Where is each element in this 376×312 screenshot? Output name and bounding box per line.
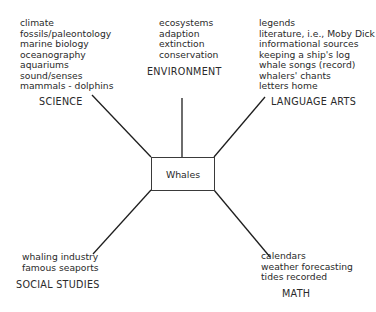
line-math	[214, 190, 270, 257]
center-topic-label: Whales	[166, 169, 200, 180]
environment-item: ecosystems	[159, 18, 218, 29]
language-arts-heading: LANGUAGE ARTS	[271, 96, 356, 107]
environment-heading: ENVIRONMENT	[147, 66, 222, 77]
environment-items: ecosystems adaption extinction conservat…	[159, 18, 218, 60]
environment-item: extinction	[159, 39, 218, 50]
language-arts-item: informational sources	[259, 39, 375, 50]
science-heading: SCIENCE	[39, 96, 83, 107]
math-item: tides recorded	[261, 272, 353, 283]
language-arts-item: legends	[259, 18, 375, 29]
line-social-studies	[93, 190, 151, 254]
science-item: marine biology	[20, 39, 113, 50]
language-arts-item: whale songs (record)	[259, 60, 375, 71]
social-studies-heading: SOCIAL STUDIES	[16, 279, 100, 290]
social-studies-items: whaling industry famous seaports	[22, 252, 99, 273]
language-arts-item: letters home	[259, 81, 375, 92]
line-language-arts	[214, 97, 265, 157]
language-arts-items: legends literature, i.e., Moby Dick info…	[259, 18, 375, 92]
social-studies-item: whaling industry	[22, 252, 99, 263]
math-heading: MATH	[282, 288, 310, 299]
math-item: calendars	[261, 251, 353, 262]
science-item: aquariums	[20, 60, 113, 71]
environment-item: conservation	[159, 50, 218, 61]
social-studies-item: famous seaports	[22, 263, 99, 274]
science-item: mammals - dolphins	[20, 81, 113, 92]
math-items: calendars weather forecasting tides reco…	[261, 251, 353, 283]
science-item: climate	[20, 18, 113, 29]
science-items: climate fossils/paleontology marine biol…	[20, 18, 113, 92]
line-science	[92, 95, 151, 157]
center-topic-box: Whales	[151, 157, 215, 191]
